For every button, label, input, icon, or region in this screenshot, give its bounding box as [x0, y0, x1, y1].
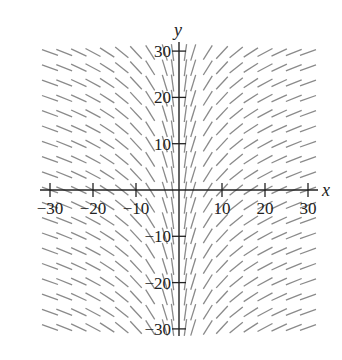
slope-segment: [100, 308, 114, 317]
slope-segment: [191, 75, 196, 91]
slope-segment: [272, 217, 287, 224]
slope-segment: [230, 215, 243, 226]
slope-segment: [56, 110, 72, 116]
slope-segment: [203, 259, 212, 273]
slope-segment: [71, 217, 86, 224]
slope-segment: [42, 141, 58, 147]
slope-segment: [100, 292, 114, 301]
slope-segment: [230, 78, 243, 89]
slope-segment: [272, 125, 287, 132]
slope-segment: [130, 230, 142, 243]
slope-segment: [244, 292, 258, 301]
slope-segment: [216, 291, 228, 304]
slope-segment: [86, 155, 101, 163]
slope-segment: [56, 233, 72, 239]
y-tick-label: −10: [144, 227, 171, 246]
slope-segment: [184, 258, 186, 275]
slope-segment: [100, 277, 114, 286]
slope-segment: [300, 65, 316, 71]
slope-segment: [86, 262, 101, 270]
slope-segment: [191, 60, 196, 76]
slope-segment: [258, 140, 273, 148]
slope-segment: [203, 213, 212, 228]
slope-segment: [115, 169, 128, 180]
slope-segment: [56, 49, 72, 55]
slope-segment: [100, 140, 114, 149]
slope-segment: [286, 279, 302, 285]
slope-segment: [146, 305, 155, 319]
y-tick-label: −30: [144, 320, 171, 339]
slope-segment: [258, 94, 273, 102]
slope-segment: [216, 245, 228, 257]
slope-segment: [272, 278, 287, 285]
slope-segment: [203, 229, 212, 244]
slope-segment: [146, 168, 155, 182]
slope-segment: [258, 308, 273, 316]
slope-segment: [130, 138, 142, 151]
slope-segment: [115, 124, 128, 135]
slope-segment: [191, 258, 196, 274]
slope-segment: [130, 321, 142, 333]
slope-segment: [86, 308, 101, 316]
slope-segment: [171, 121, 173, 138]
slope-segment: [216, 260, 228, 272]
slope-segment: [100, 155, 114, 164]
x-axis-label: x: [321, 180, 330, 200]
slope-segment: [56, 217, 72, 223]
slope-segment: [171, 90, 173, 107]
slope-segment: [71, 293, 86, 300]
slope-segment: [191, 136, 196, 152]
slope-segment: [286, 248, 302, 254]
slope-segment: [258, 232, 273, 240]
slope-segment: [216, 138, 228, 151]
slope-segment: [115, 108, 128, 119]
slope-segment: [86, 64, 101, 72]
slope-segment: [244, 48, 258, 57]
slope-segment: [244, 140, 258, 149]
slope-segment: [86, 125, 101, 133]
slope-segment: [171, 44, 173, 61]
slope-segment: [230, 139, 243, 150]
slope-segment: [272, 95, 287, 102]
y-tick-label: 20: [154, 88, 171, 107]
slope-segment: [56, 80, 72, 86]
slope-segment: [71, 80, 86, 87]
slope-segment: [286, 263, 302, 269]
slope-segment: [42, 96, 58, 102]
slope-segment: [56, 279, 72, 285]
slope-segment: [258, 324, 273, 332]
slope-segment: [42, 294, 58, 300]
slope-segment: [203, 290, 212, 305]
slope-segment: [115, 261, 128, 272]
slope-segment: [130, 107, 142, 119]
slope-segment: [71, 156, 86, 163]
slope-segment: [100, 262, 114, 271]
slope-segment: [230, 261, 243, 272]
x-ticks: −30−20−10102030: [37, 183, 317, 218]
x-tick-label: −10: [123, 199, 150, 218]
slope-segment: [42, 233, 58, 239]
slope-segment: [56, 141, 72, 147]
slope-segment: [230, 154, 243, 165]
slope-segment: [42, 80, 58, 86]
x-tick-label: −30: [37, 199, 64, 218]
slope-segment: [115, 47, 128, 58]
slope-segment: [100, 247, 114, 256]
slope-segment: [244, 124, 258, 133]
slope-segment: [300, 218, 316, 224]
slope-segment: [184, 289, 186, 306]
slope-segment: [171, 304, 173, 321]
slope-segment: [115, 307, 128, 318]
slope-segment: [184, 44, 186, 61]
slope-segment: [191, 121, 196, 137]
slope-segment: [56, 324, 72, 330]
slope-segment: [184, 105, 186, 122]
slope-segment: [258, 125, 273, 133]
slope-segment: [216, 153, 228, 166]
slope-segment: [300, 172, 316, 178]
slope-segment: [115, 62, 128, 73]
slope-segment: [230, 276, 243, 287]
slope-segment: [56, 126, 72, 132]
slope-segment: [71, 263, 86, 270]
slope-segment: [100, 78, 114, 87]
